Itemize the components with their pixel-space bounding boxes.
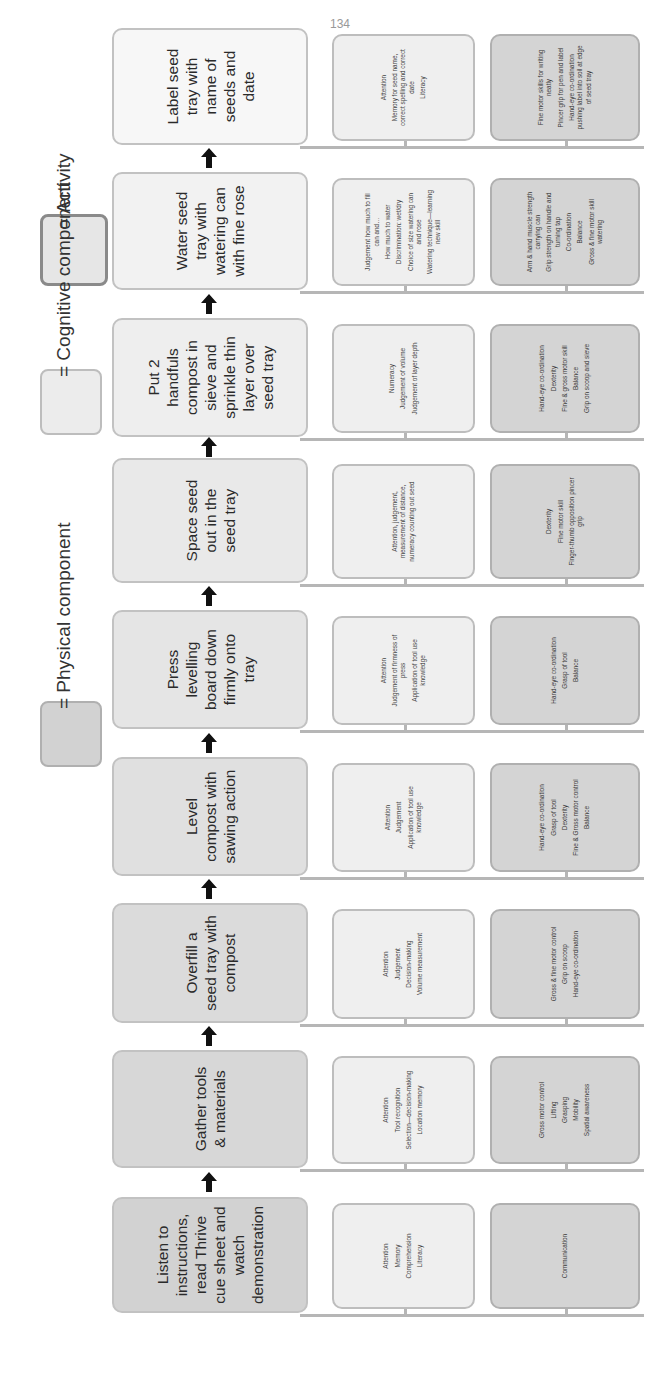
cognitive-skill: Application of tool use knowledge bbox=[407, 773, 424, 862]
cognitive-component-box: AttentionMemoryComprehensionLiteracy bbox=[332, 1203, 475, 1309]
physical-component-box: Communication bbox=[490, 1203, 640, 1309]
page-number: 134 bbox=[330, 17, 350, 31]
physical-skill: Gross motor control bbox=[538, 1082, 546, 1138]
connector-line bbox=[404, 141, 407, 149]
physical-skill: Co-ordination bbox=[565, 188, 573, 276]
cognitive-skill: Numeracy bbox=[388, 342, 396, 414]
physical-skill: Dexterity bbox=[550, 344, 558, 413]
physical-skill: Fine & Gross motor control bbox=[572, 779, 580, 855]
cognitive-component-box: AttentionMemory for seed name, correct s… bbox=[332, 34, 475, 141]
activity-box: Level compost with sawing action bbox=[112, 757, 308, 876]
arrow-right-icon bbox=[201, 1027, 217, 1047]
arrow-right-icon bbox=[201, 149, 217, 169]
physical-skill: Grasp of tool bbox=[561, 637, 569, 703]
physical-component-box: Gross & fine motor controlGrip on scoopH… bbox=[490, 909, 640, 1019]
connector-line bbox=[404, 433, 407, 441]
physical-skill: Dexterity bbox=[561, 779, 569, 855]
physical-component-box: Hand-eye co-ordinationGrasp of toolDexte… bbox=[490, 763, 640, 872]
activity-box: Overfill a seed tray with compost bbox=[112, 903, 308, 1023]
connector-line bbox=[565, 1164, 568, 1172]
connector-line bbox=[300, 146, 644, 149]
activity-box: Label seed tray with name of seeds and d… bbox=[112, 28, 308, 145]
cognitive-skill: Location memory bbox=[416, 1071, 424, 1150]
cognitive-skill: Choice of size watering can and rose bbox=[407, 188, 424, 276]
cognitive-skill: Attention bbox=[382, 1071, 390, 1150]
cognitive-skill: Memory bbox=[394, 1233, 402, 1278]
connector-line bbox=[300, 730, 644, 733]
connector-line bbox=[300, 1169, 644, 1172]
activity-box: Press levelling board down firmly onto t… bbox=[112, 610, 308, 729]
connector-line bbox=[300, 877, 644, 880]
activity-label: Space seed out in the seed tray bbox=[182, 470, 239, 571]
physical-skill: Balance bbox=[572, 344, 580, 413]
activity-box: Put 2 handfuls compost in sieve and spri… bbox=[112, 318, 308, 437]
cognitive-skill: Decision-making bbox=[405, 933, 413, 995]
physical-skill: Pincer grip for pen and label bbox=[557, 44, 565, 131]
physical-skill: Hand-eye co-ordination bbox=[538, 779, 546, 855]
cognitive-component-box: Judgement how much to fill can and…How m… bbox=[332, 178, 475, 286]
physical-skill: Communication bbox=[561, 1234, 569, 1278]
cognitive-skill: Attention bbox=[382, 1233, 390, 1278]
physical-skill: Spatial awareness bbox=[583, 1082, 591, 1138]
physical-component-box: DexterityFine motor skillFinger-thumb op… bbox=[490, 464, 640, 579]
connector-line bbox=[565, 725, 568, 733]
connector-line bbox=[565, 1309, 568, 1317]
cognitive-skill: Judgement bbox=[394, 933, 402, 995]
connector-line bbox=[565, 141, 568, 149]
diagram-canvas: = Activity = Cognitive component = Physi… bbox=[0, 0, 670, 1389]
cognitive-component-box: AttentionJudgementDecision-makingVolume … bbox=[332, 909, 475, 1019]
cognitive-skill: Volume measurement bbox=[416, 933, 424, 995]
physical-skill: Lifting bbox=[550, 1082, 558, 1138]
physical-skill: Grip strength on handle and turning tap bbox=[545, 188, 562, 276]
cognitive-component-box: NumeracyJudgement of volumeJudgement of … bbox=[332, 324, 475, 433]
cognitive-component-box: AttentionJudgementApplication of tool us… bbox=[332, 763, 475, 872]
cognitive-skill: Attention bbox=[384, 773, 392, 862]
physical-skill: Dexterity bbox=[545, 474, 553, 569]
cognitive-skill: Attention bbox=[380, 44, 388, 131]
physical-skill: Hand-eye co-ordination pushing label int… bbox=[568, 44, 593, 131]
connector-line bbox=[300, 291, 644, 294]
cognitive-skill: Discrimination: wet/dry bbox=[395, 188, 403, 276]
legend-physical-swatch bbox=[40, 701, 102, 767]
arrow-right-icon bbox=[201, 880, 217, 900]
cognitive-skill: Attention bbox=[382, 933, 390, 995]
activity-label: Water seed tray with watering can with f… bbox=[172, 184, 248, 278]
cognitive-skill: Tool recognition bbox=[394, 1071, 402, 1150]
physical-skill: Fine motor skill bbox=[557, 474, 565, 569]
physical-skill: Balance bbox=[576, 188, 584, 276]
connector-line bbox=[404, 1019, 407, 1027]
connector-line bbox=[565, 1019, 568, 1027]
connector-line bbox=[300, 1314, 644, 1317]
physical-skill: Balance bbox=[572, 637, 580, 703]
activity-label: Label seed tray with name of seeds and d… bbox=[163, 40, 258, 133]
physical-skill: Grip on scoop bbox=[561, 927, 569, 1001]
physical-skill: Grasp of tool bbox=[550, 779, 558, 855]
activity-label: Put 2 handfuls compost in sieve and spri… bbox=[144, 330, 277, 425]
physical-skill: Grasping bbox=[561, 1082, 569, 1138]
connector-line bbox=[565, 286, 568, 294]
connector-line bbox=[565, 872, 568, 880]
legend-cognitive-swatch bbox=[40, 369, 102, 435]
physical-skill: Fine & gross motor skill bbox=[561, 344, 569, 413]
physical-component-box: Hand-eye co-ordinationGrasp of toolBalan… bbox=[490, 616, 640, 725]
physical-skill: Finger-thumb opposition pincer grip bbox=[568, 474, 585, 569]
physical-skill: Balance bbox=[583, 779, 591, 855]
connector-line bbox=[565, 433, 568, 441]
connector-line bbox=[300, 1024, 644, 1027]
connector-line bbox=[404, 286, 407, 294]
activity-label: Press levelling board down firmly onto t… bbox=[163, 622, 258, 717]
connector-line bbox=[565, 579, 568, 587]
activity-label: Gather tools & materials bbox=[191, 1062, 229, 1156]
activity-label: Level compost with sawing action bbox=[182, 769, 239, 864]
cognitive-skill: Judgement of volume bbox=[399, 342, 407, 414]
cognitive-skill: Judgement how much to fill can and… bbox=[364, 188, 381, 276]
physical-skill: Hand-eye co-ordination bbox=[572, 927, 580, 1001]
connector-line bbox=[300, 584, 644, 587]
physical-skill: Grip on scoop and sieve bbox=[583, 344, 591, 413]
activity-box: Space seed out in the seed tray bbox=[112, 458, 308, 583]
cognitive-skill: Watering technique—learning new skill bbox=[426, 188, 443, 276]
connector-line bbox=[300, 438, 644, 441]
activity-box: Gather tools & materials bbox=[112, 1050, 308, 1168]
connector-line bbox=[404, 725, 407, 733]
activity-box: Water seed tray with watering can with f… bbox=[112, 172, 308, 290]
